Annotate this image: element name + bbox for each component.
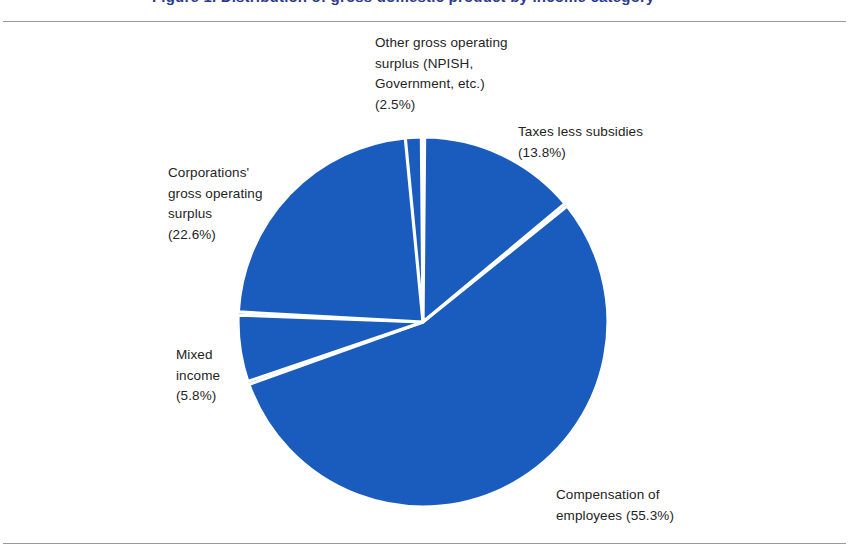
chart-page: Figure 1. Distribution of gross domestic… <box>0 0 849 560</box>
slice-label-compensation-of-employees: Compensation of employees (55.3%) <box>556 485 776 526</box>
slice-label-corporations-gross-operating-surplus: Corporations' gross operating surplus (2… <box>168 163 348 245</box>
divider-bottom <box>3 543 846 544</box>
slice-label-taxes-less-subsidies: Taxes less subsidies (13.8%) <box>518 122 748 163</box>
slice-label-other-gross-operating-surplus: Other gross operating surplus (NPISH, Go… <box>375 33 585 115</box>
slice-label-mixed-income: Mixed income (5.8%) <box>176 345 316 407</box>
